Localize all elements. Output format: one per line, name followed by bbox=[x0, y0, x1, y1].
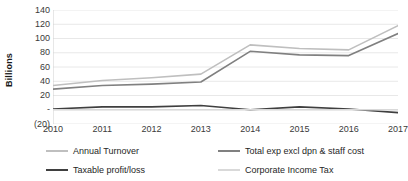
y-tick-label: 40 bbox=[40, 76, 50, 85]
legend-item-label: Corporate Income Tax bbox=[245, 165, 333, 175]
legend-line-icon bbox=[218, 169, 240, 171]
legend-item[interactable]: Annual Turnover bbox=[46, 141, 218, 160]
chart-legend: Annual TurnoverTotal exp excl dpn & staf… bbox=[46, 141, 386, 179]
legend-line-icon bbox=[218, 150, 240, 152]
legend-line-icon bbox=[46, 150, 68, 152]
x-tick-label: 2012 bbox=[142, 124, 162, 135]
x-tick-label: 2014 bbox=[240, 124, 260, 135]
y-tick-label: 120 bbox=[35, 19, 50, 28]
x-tick-label: 2017 bbox=[388, 124, 408, 135]
legend-line-icon bbox=[46, 169, 68, 171]
y-axis-title-label: Billions bbox=[4, 53, 14, 87]
legend-item[interactable]: Corporate Income Tax bbox=[218, 160, 386, 179]
y-axis-tick-labels: 14012010080604020-(20) bbox=[18, 0, 50, 135]
x-tick-label: 2010 bbox=[43, 124, 63, 135]
legend-item-label: Total exp excl dpn & staff cost bbox=[245, 146, 364, 156]
x-tick-label: 2016 bbox=[339, 124, 359, 135]
y-tick-label: - bbox=[47, 105, 50, 114]
y-tick-label: 20 bbox=[40, 91, 50, 100]
x-tick-label: 2013 bbox=[191, 124, 211, 135]
plot-area bbox=[53, 10, 398, 124]
x-axis-tick-labels: 20102011201220132014201520162017 bbox=[53, 124, 398, 137]
y-tick-label: 140 bbox=[35, 5, 50, 14]
y-axis-title: Billions bbox=[2, 28, 16, 112]
x-tick-label: 2011 bbox=[93, 124, 112, 135]
y-tick-label: 80 bbox=[40, 48, 50, 57]
y-tick-label: 100 bbox=[35, 34, 50, 43]
plot-svg bbox=[53, 10, 398, 124]
legend-item-label: Taxable profit/loss bbox=[73, 165, 145, 175]
legend-item[interactable]: Taxable profit/loss bbox=[46, 160, 218, 179]
legend-item[interactable]: Total exp excl dpn & staff cost bbox=[218, 141, 386, 160]
y-tick-label: 60 bbox=[40, 62, 50, 71]
x-tick-label: 2015 bbox=[289, 124, 309, 135]
legend-item-label: Annual Turnover bbox=[73, 146, 139, 156]
